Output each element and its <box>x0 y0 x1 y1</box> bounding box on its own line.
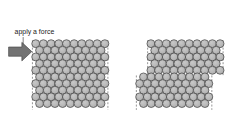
atom-circle <box>51 100 59 108</box>
diagram-canvas: apply a force <box>0 0 235 137</box>
atom-circle <box>36 100 44 108</box>
atom-circle <box>82 100 90 108</box>
atom-circle <box>147 100 155 108</box>
atom-circle <box>140 100 148 108</box>
atom-circle <box>201 100 209 108</box>
apply-force-label: apply a force <box>15 28 55 36</box>
atom-circle <box>59 100 67 108</box>
undeformed-crystal-lattice <box>32 40 109 108</box>
atom-circle <box>208 66 216 74</box>
atom-circle <box>178 100 186 108</box>
crystal-slip-figure: apply a force <box>0 0 235 137</box>
atom-circle <box>66 100 74 108</box>
atom-circle <box>170 100 178 108</box>
atom-circle <box>74 100 82 108</box>
atom-circle <box>163 100 171 108</box>
atom-circle <box>155 100 163 108</box>
atom-circle <box>216 66 224 74</box>
atom-circle <box>193 100 201 108</box>
atom-circle <box>186 100 194 108</box>
atom-circle <box>97 100 105 108</box>
atom-circle <box>43 100 51 108</box>
atom-circle <box>89 100 97 108</box>
